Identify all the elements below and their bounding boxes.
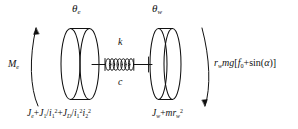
input-torque-subscript: e xyxy=(16,63,19,70)
label-damping: c xyxy=(118,77,122,87)
label-theta-engine: θe xyxy=(72,3,80,16)
label-input-torque: Me xyxy=(8,59,19,70)
label-engine-inertia: Je+J1/i12+JD/i12i22 xyxy=(27,109,91,120)
left-arc-arrow xyxy=(31,28,39,106)
theta-engine-subscript: e xyxy=(77,8,80,15)
drivetrain-diagram: θe θw k c Me rwmg[f0+sin(α)] Je+J1/i12+J… xyxy=(0,0,298,129)
coil-spring xyxy=(105,59,134,71)
label-load-torque: rwmg[f0+sin(α)] xyxy=(214,58,276,69)
wheel-inertia-disc xyxy=(150,29,181,100)
label-wheel-inertia: Jw+mrw2 xyxy=(152,109,183,120)
label-spring-stiffness: k xyxy=(118,37,122,47)
label-theta-wheel: θw xyxy=(152,3,162,16)
right-arc-arrow xyxy=(202,28,209,106)
theta-wheel-subscript: w xyxy=(157,8,162,15)
